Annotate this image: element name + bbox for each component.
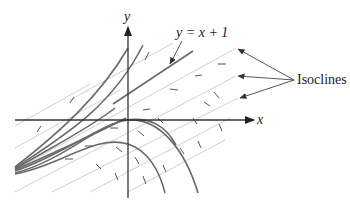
isoclines-label: Isoclines <box>297 72 347 87</box>
line-y-equals-x-plus-1 <box>113 51 193 104</box>
y-axis-label: y <box>122 9 131 24</box>
isocline-lines <box>15 43 238 192</box>
isocline-diagram: x y y = x + 1 Isoclines <box>0 0 350 207</box>
special-line-label: y = x + 1 <box>174 25 228 40</box>
isocline-leaders <box>238 49 294 98</box>
special-line-leader <box>170 41 182 64</box>
x-axis-label: x <box>256 112 264 127</box>
